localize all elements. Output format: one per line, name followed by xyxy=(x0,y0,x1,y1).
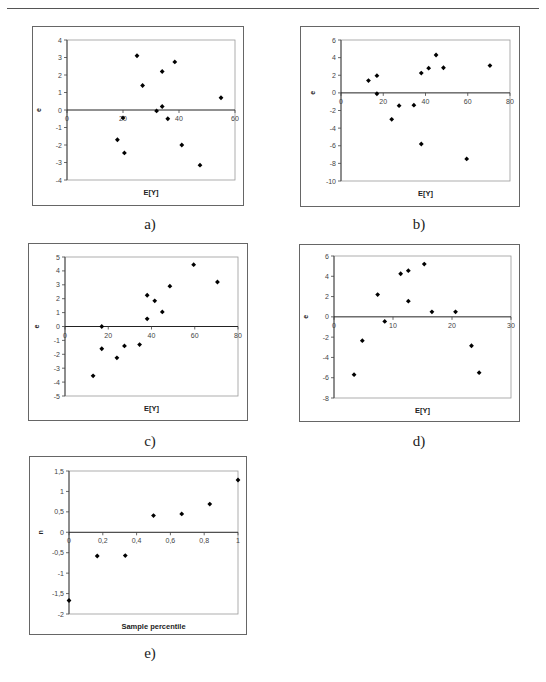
x-tick-label: 1 xyxy=(236,537,240,544)
scatter-plot-b: -10-8-6-4-20246020406080eE[Y] xyxy=(301,27,521,208)
y-tick-label: -1,5 xyxy=(52,590,64,597)
x-axis-label: E[Y] xyxy=(415,406,431,415)
scatter-plot-c: -5-4-3-2-1012345020406080eE[Y] xyxy=(29,244,249,422)
y-tick-label: -8 xyxy=(323,395,329,402)
y-axis-label: e xyxy=(35,108,42,112)
y-tick-label: 3 xyxy=(58,54,62,61)
scatter-plot-d: -8-6-4-202460102030eE[Y] xyxy=(300,245,521,423)
plot-area xyxy=(334,256,511,398)
x-tick-label: 0 xyxy=(67,537,71,544)
x-tick-label: 60 xyxy=(191,332,199,339)
y-tick-label: -4 xyxy=(330,125,336,132)
y-tick-label: 0,5 xyxy=(54,508,64,515)
x-tick-label: 30 xyxy=(507,322,515,329)
y-axis-label: e xyxy=(309,91,316,95)
y-tick-label: 0 xyxy=(58,107,62,114)
y-tick-label: -4 xyxy=(54,379,60,386)
y-tick-label: 5 xyxy=(56,254,60,261)
y-tick-label: 6 xyxy=(325,253,329,260)
y-tick-label: -10 xyxy=(326,178,336,185)
x-axis-label: Sample percentile xyxy=(121,622,185,631)
x-tick-label: 60 xyxy=(464,98,472,105)
x-tick-label: 0 xyxy=(332,322,336,329)
plot-area xyxy=(69,471,238,614)
chart-c-frame: -5-4-3-2-1012345020406080eE[Y] xyxy=(28,243,248,421)
y-tick-label: -4 xyxy=(323,354,329,361)
caption-b: b) xyxy=(399,216,439,233)
chart-d-frame: -8-6-4-202460102030eE[Y] xyxy=(299,244,520,422)
x-axis-label: E[Y] xyxy=(144,188,160,197)
y-axis-label: e xyxy=(33,324,40,328)
y-tick-label: 0 xyxy=(325,313,329,320)
x-tick-label: 40 xyxy=(175,115,183,122)
y-tick-label: 1 xyxy=(60,488,64,495)
y-tick-label: -2 xyxy=(54,351,60,358)
y-tick-label: 4 xyxy=(325,273,329,280)
chart-b-frame: -10-8-6-4-20246020406080eE[Y] xyxy=(300,26,520,207)
y-tick-label: 2 xyxy=(332,72,336,79)
y-tick-label: -8 xyxy=(330,160,336,167)
y-tick-label: 1,5 xyxy=(54,468,64,475)
y-axis-label: n xyxy=(37,530,44,534)
x-tick-label: 0 xyxy=(65,115,69,122)
y-tick-label: -2 xyxy=(58,611,64,618)
y-tick-label: 0 xyxy=(56,323,60,330)
y-tick-label: -3 xyxy=(56,159,62,166)
y-axis-label: e xyxy=(302,315,309,319)
y-tick-label: 6 xyxy=(332,37,336,44)
y-tick-label: -4 xyxy=(56,177,62,184)
y-tick-label: -2 xyxy=(56,142,62,149)
x-tick-label: 60 xyxy=(231,115,239,122)
y-tick-label: 4 xyxy=(56,267,60,274)
y-tick-label: 4 xyxy=(332,54,336,61)
x-tick-label: 0,4 xyxy=(132,537,142,544)
y-tick-label: 1 xyxy=(56,309,60,316)
x-tick-label: 0 xyxy=(339,98,343,105)
x-tick-label: 0,2 xyxy=(98,537,108,544)
x-tick-label: 20 xyxy=(379,98,387,105)
y-tick-label: -2 xyxy=(330,107,336,114)
x-tick-label: 10 xyxy=(389,322,397,329)
caption-d: d) xyxy=(399,433,439,450)
y-tick-label: 0 xyxy=(332,89,336,96)
x-axis-label: E[Y] xyxy=(144,404,160,413)
y-tick-label: -6 xyxy=(330,142,336,149)
caption-c: c) xyxy=(130,433,170,450)
y-tick-label: -1 xyxy=(56,124,62,131)
scatter-plot-a: -4-3-2-1012340204060eE[Y] xyxy=(33,27,245,207)
x-tick-label: 40 xyxy=(148,332,156,339)
y-tick-label: -0,5 xyxy=(52,549,64,556)
x-tick-label: 80 xyxy=(506,98,514,105)
y-tick-label: 4 xyxy=(58,37,62,44)
x-tick-label: 20 xyxy=(104,332,112,339)
scatter-plot-e: -2-1,5-1-0,500,511,500,20,40,60,81nSampl… xyxy=(30,457,248,636)
chart-a-frame: -4-3-2-1012340204060eE[Y] xyxy=(32,26,244,206)
page-header-rule xyxy=(7,8,539,9)
x-axis-label: E[Y] xyxy=(418,189,434,198)
x-tick-label: 40 xyxy=(422,98,430,105)
chart-e-frame: -2-1,5-1-0,500,511,500,20,40,60,81nSampl… xyxy=(29,456,247,635)
x-tick-label: 80 xyxy=(234,332,242,339)
x-tick-label: 0,8 xyxy=(199,537,209,544)
x-tick-label: 20 xyxy=(448,322,456,329)
x-tick-label: 0,6 xyxy=(166,537,176,544)
y-tick-label: -1 xyxy=(54,337,60,344)
y-tick-label: -3 xyxy=(54,365,60,372)
x-tick-label: 0 xyxy=(63,332,67,339)
caption-a: a) xyxy=(130,216,170,233)
y-tick-label: -2 xyxy=(323,334,329,341)
y-tick-label: 2 xyxy=(58,72,62,79)
y-tick-label: 2 xyxy=(56,295,60,302)
caption-e: e) xyxy=(130,645,170,662)
y-tick-label: 1 xyxy=(58,89,62,96)
y-tick-label: 0 xyxy=(60,529,64,536)
y-tick-label: -1 xyxy=(58,570,64,577)
y-tick-label: -6 xyxy=(323,374,329,381)
y-tick-label: -5 xyxy=(54,393,60,400)
y-tick-label: 2 xyxy=(325,293,329,300)
y-tick-label: 3 xyxy=(56,281,60,288)
plot-area xyxy=(341,40,510,181)
